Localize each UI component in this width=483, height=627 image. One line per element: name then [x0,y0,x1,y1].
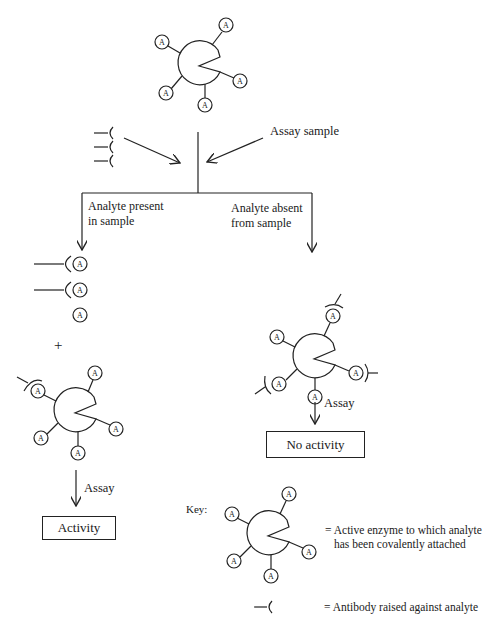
branch-present-label-1: Analyte present [88,199,164,213]
plus-sign: + [54,338,62,352]
branch-present-label-2: in sample [88,214,134,228]
antibody-analyte-complexes [34,256,87,322]
absent-enzyme [255,294,378,404]
key-enzyme-desc-1: = Active enzyme to which analyte [325,523,482,537]
present-enzyme [17,366,123,460]
outcome-no-activity-box: No activity [266,431,365,458]
branch-absent-label-2: from sample [231,216,291,230]
assay-sample-label: Assay sample [270,124,339,138]
free-antibodies [94,127,113,167]
antibody-arrow [124,138,180,163]
key-enzyme-symbol [225,487,316,583]
outcome-activity-box: Activity [42,516,116,540]
branch-absent-label-1: Analyte absent [231,201,303,215]
key-antibody-desc: = Antibody raised against analyte [324,600,478,614]
assay-label-left: Assay [84,481,115,495]
key-enzyme-desc-2: has been covalently attached [334,537,466,551]
sample-arrow [207,138,263,162]
key-title: Key: [186,502,207,516]
assay-label-right: Assay [324,396,355,410]
top-enzyme [155,18,247,112]
key-antibody-symbol [254,601,272,613]
